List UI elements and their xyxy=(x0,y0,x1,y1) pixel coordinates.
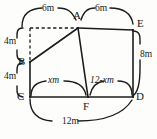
dimension-label-bottom-right: 12-xm xyxy=(90,76,114,86)
edge-A-F xyxy=(78,28,88,97)
vertex-label-A: A xyxy=(73,10,81,21)
edge-A-B xyxy=(30,28,78,62)
edge-E-A xyxy=(78,28,133,30)
vertex-dot-E xyxy=(132,29,134,31)
vertex-dot-A xyxy=(77,27,79,29)
vertex-dot-B xyxy=(29,61,31,63)
dimension-label-bottom: 12m xyxy=(62,117,79,127)
dimension-label-top-right: 6m xyxy=(95,4,107,14)
vertex-dot-C xyxy=(29,96,31,98)
dimension-label-bottom-left: xm xyxy=(48,76,59,86)
vertex-label-B: B xyxy=(18,56,25,67)
vertex-dot-D xyxy=(132,96,134,98)
vertex-dot-F xyxy=(87,96,89,98)
dimension-label-top-left: 6m xyxy=(42,4,54,14)
vertex-label-E: E xyxy=(137,18,144,29)
brace-right xyxy=(133,31,140,96)
dimension-label-right: 8m xyxy=(140,50,152,60)
vertex-label-D: D xyxy=(136,91,144,102)
dimension-label-left-lower: 4m xyxy=(4,72,16,82)
geometry-diagram-figure: A B C D E F 6m 6m 4m 4m 8m xm 12-xm 12m xyxy=(0,0,157,139)
vertex-label-C: C xyxy=(17,91,24,102)
brace-bottom xyxy=(30,99,132,121)
vertex-label-F: F xyxy=(83,101,89,112)
dimension-label-left-upper: 4m xyxy=(4,37,16,47)
dimension-braces xyxy=(17,8,140,121)
